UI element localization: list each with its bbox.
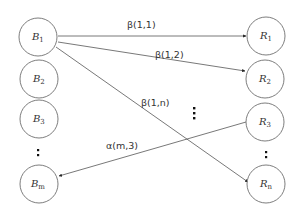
edge-label-b1-rn: β(1,n) <box>141 97 170 108</box>
edge-label-b1-r1: β(1,1) <box>127 19 156 30</box>
edges <box>56 36 248 182</box>
edge-r3-bm <box>59 122 246 176</box>
node-r3: R3 <box>246 103 284 141</box>
node-b3-base: B <box>32 113 40 124</box>
node-r1-sub: 1 <box>268 35 272 43</box>
node-bm-sub: m <box>38 183 45 191</box>
node-bm: Bm <box>20 165 58 203</box>
edge-label-b1-r2: β(1,2) <box>155 49 184 60</box>
node-rn: Rn <box>247 165 285 203</box>
edge-label-r3-bm: α(m,3) <box>106 140 138 151</box>
node-b2-sub: 2 <box>40 78 44 86</box>
node-r1: R1 <box>247 17 285 55</box>
ellipsis-left <box>37 149 39 156</box>
node-b3: B3 <box>20 100 58 138</box>
node-b1-sub: 1 <box>39 36 43 44</box>
edge-b1-r2 <box>58 42 245 71</box>
node-b1: B1 <box>19 18 57 56</box>
node-bm-base: B <box>30 178 38 189</box>
node-b2: B2 <box>20 60 58 98</box>
node-r3-sub: 3 <box>267 121 271 129</box>
node-b1-base: B <box>31 31 39 42</box>
bipartite-diagram: β(1,1) β(1,2) β(1,n) α(m,3) B1 B2 B3 Bm … <box>0 0 303 215</box>
node-b2-base: B <box>32 73 40 84</box>
node-r2-sub: 2 <box>267 78 271 86</box>
node-b3-sub: 3 <box>40 118 44 126</box>
node-rn-sub: n <box>268 183 273 191</box>
node-r2: R2 <box>246 60 284 98</box>
ellipsis-right <box>265 151 267 158</box>
ellipsis-middle <box>193 107 195 119</box>
